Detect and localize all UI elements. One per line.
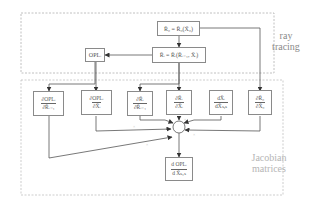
dx-dxsys-box: dX̄ᵢdX̄ₛᵧₛ — [209, 90, 233, 115]
dr0-dx0-den: ∂X̄₀ — [255, 102, 266, 110]
multiply-mark: × — [133, 124, 135, 129]
arrow-ri-to-dr-drprev — [140, 63, 179, 91]
dopl-dx-den: ∂X̄ᵢ — [92, 102, 102, 110]
multiply-mark: × — [157, 117, 159, 122]
result-box: d OPLᵢd X̄ₛᵧₛ — [165, 157, 193, 181]
r0-box: R̄₀ = R̄₀(X̄₀) — [157, 21, 200, 36]
arrow-r0-to-dr0 — [200, 28, 260, 91]
opl-text: OPLᵢ — [89, 52, 101, 58]
dr0-dx0-box: ∂R̄₀∂X̄₀ — [248, 90, 272, 115]
jacobian-label: Jacobian matrices — [244, 152, 294, 174]
arrow-dopl-dr-to-product — [49, 116, 172, 158]
dx-dxsys-den: dX̄ₛᵧₛ — [214, 102, 228, 110]
dopl-dx-box: ∂OPLᵢ∂X̄ᵢ — [81, 90, 112, 115]
ri-text: R̄ᵢ = R̄ᵢ(R̄ᵢ₋₁, X̄ᵢ) — [160, 52, 199, 58]
multiply-mark: × — [146, 142, 148, 147]
r0-text: R̄₀ = R̄₀(X̄₀) — [164, 26, 193, 32]
arrow-opl-to-dopl-dr — [49, 62, 95, 91]
dopl-dr-den: ∂R̄ᵢ₋₁ — [41, 103, 55, 111]
dr-drprev-den: ∂R̄ᵢ₋₁ — [133, 103, 147, 111]
product-node — [173, 121, 185, 133]
dr-dx-box: ∂R̄ᵢ∂X̄ᵢ — [166, 90, 192, 115]
result-den: d X̄ₛᵧₛ — [171, 169, 187, 177]
multiply-mark: × — [184, 117, 186, 122]
ray-tracing-region — [21, 13, 274, 73]
arrow-dx-dxsys-to-product — [184, 116, 221, 123]
ray-tracing-label: ray tracing — [266, 30, 306, 52]
dr-dx-den: ∂X̄ᵢ — [174, 102, 184, 110]
ray-tracing-label-line2: tracing — [266, 41, 306, 52]
jacobian-label-line2: matrices — [244, 163, 294, 174]
multiply-mark: × — [193, 132, 195, 137]
ray-tracing-label-line1: ray — [266, 30, 306, 41]
arrow-dr0-to-product — [185, 116, 260, 131]
jacobian-label-line1: Jacobian — [244, 152, 294, 163]
opl-box: OPLᵢ — [85, 48, 105, 62]
dopl-dr-box: ∂OPLᵢ∂R̄ᵢ₋₁ — [33, 91, 64, 116]
dr-drprev-box: ∂R̄ᵢ∂R̄ᵢ₋₁ — [127, 91, 153, 116]
multiply-mark: × — [200, 117, 202, 122]
ri-box: R̄ᵢ = R̄ᵢ(R̄ᵢ₋₁, X̄ᵢ) — [152, 47, 206, 63]
